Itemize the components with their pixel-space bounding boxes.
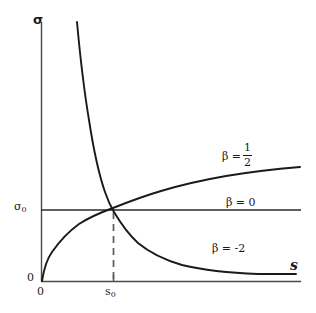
plot-canvas	[0, 0, 316, 313]
y-axis-title: σ	[33, 13, 43, 26]
curve-beta-neg2	[77, 22, 296, 274]
origin-label-y: 0	[27, 272, 34, 283]
x-tick-label-s0: s0	[105, 286, 116, 299]
curve-beta-half	[42, 167, 300, 281]
curve-label-beta-negative-two: β = -2	[212, 243, 245, 254]
curve-label-beta-half-prefix: β =	[222, 151, 241, 162]
curve-label-beta-half: β = 1 2	[222, 143, 252, 169]
y-tick-label-sigma0: σ0	[14, 201, 27, 214]
origin-label-x: 0	[37, 286, 44, 297]
fraction-one-half: 1 2	[243, 142, 252, 168]
y-tick-label-base: σ	[14, 200, 22, 213]
power-law-curves-figure: σ s 0 0 σ0 s0 β = 1 2 β = 0 β = -2	[0, 0, 316, 313]
x-tick-label-subscript: 0	[111, 290, 116, 299]
y-tick-label-subscript: 0	[22, 205, 27, 214]
fraction-numerator: 1	[243, 142, 252, 154]
fraction-denominator: 2	[243, 157, 252, 169]
curve-label-beta-zero: β = 0	[226, 197, 256, 208]
x-axis-title: s	[290, 258, 298, 272]
